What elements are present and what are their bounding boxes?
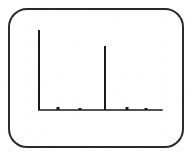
spike-plot-svg (0, 0, 196, 159)
screenshot-root (0, 0, 196, 159)
spike-plot (0, 0, 196, 159)
spike-series (39, 30, 146, 110)
